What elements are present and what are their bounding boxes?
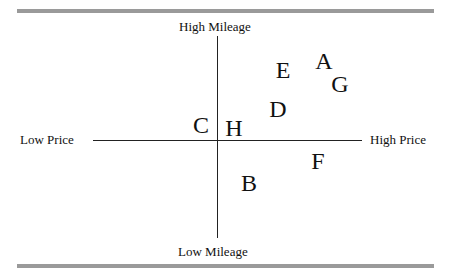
vertical-axis-line: [217, 36, 218, 238]
point-d: D: [269, 97, 286, 121]
point-g: G: [331, 72, 348, 96]
top-border-rule: [17, 9, 434, 13]
x-axis-right-label: High Price: [370, 133, 426, 146]
point-f: F: [311, 149, 324, 173]
bottom-border-rule: [17, 264, 434, 268]
y-axis-top-label: High Mileage: [179, 20, 251, 33]
point-b: B: [241, 171, 257, 195]
point-a: A: [315, 49, 332, 73]
y-axis-bottom-label: Low Mileage: [178, 245, 248, 258]
point-e: E: [276, 58, 291, 82]
point-h: H: [225, 116, 242, 140]
x-axis-left-label: Low Price: [20, 133, 74, 146]
point-c: C: [193, 113, 209, 137]
